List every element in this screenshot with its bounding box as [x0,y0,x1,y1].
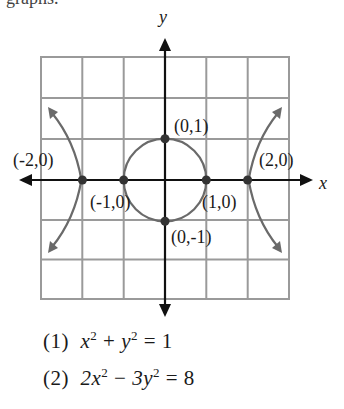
point-label: (0,-1) [171,227,211,248]
y-axis-down-arrow-icon [159,304,171,317]
point-label: (0,1) [174,116,209,137]
y-axis-label: y [157,7,167,27]
x-axis-left-arrow-icon [19,174,32,186]
x-axis-right-arrow-icon [300,174,313,186]
point-label: (1,0) [202,192,237,213]
equation-1: (1) x2 + y2 = 1 [43,328,173,354]
point-label: (2,0) [259,150,294,171]
x-axis-label: x [318,173,327,193]
axes [26,44,306,310]
equation-2: (2) 2x2 − 3y2 = 8 [43,365,195,391]
point-label: (-2,0) [13,150,53,171]
point-label: (-1,0) [90,192,130,213]
y-axis-up-arrow-icon [159,38,171,51]
